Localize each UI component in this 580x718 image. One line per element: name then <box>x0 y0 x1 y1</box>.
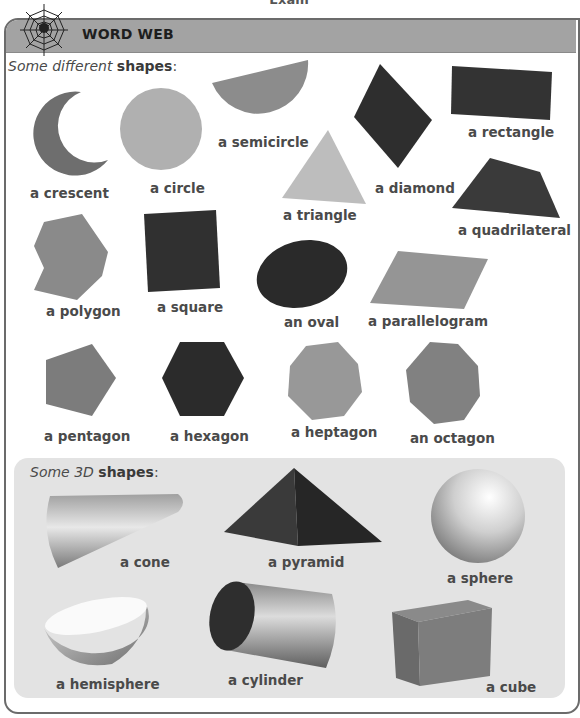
label-triangle: a triangle <box>283 207 357 223</box>
title-bold: shapes <box>98 464 154 480</box>
label-polygon: a polygon <box>46 303 121 319</box>
parallelogram-shape <box>368 249 490 311</box>
hemisphere-shape <box>42 592 152 668</box>
title-italic: Some different <box>8 58 112 74</box>
title-italic: Some 3D <box>30 464 94 480</box>
label-diamond: a diamond <box>375 180 455 196</box>
label-cube: a cube <box>486 679 536 695</box>
label-hexagon: a hexagon <box>170 428 249 444</box>
label-oval: an oval <box>284 314 339 330</box>
header-title: WORD WEB <box>82 26 174 42</box>
circle-shape <box>118 86 204 172</box>
word-web-header: WORD WEB <box>6 20 576 53</box>
title-suffix: : <box>154 464 159 480</box>
label-parallelogram: a parallelogram <box>368 313 488 329</box>
label-circle: a circle <box>150 180 205 196</box>
label-pyramid: a pyramid <box>268 554 344 570</box>
rectangle-shape <box>450 64 556 124</box>
oval-shape <box>254 238 350 310</box>
label-sphere: a sphere <box>447 570 513 586</box>
spider-web-icon <box>14 0 74 60</box>
label-hemisphere: a hemisphere <box>56 676 160 692</box>
heptagon-shape <box>284 340 364 424</box>
hexagon-shape <box>160 340 246 420</box>
label-heptagon: a heptagon <box>291 424 377 440</box>
semicircle-shape <box>210 58 310 128</box>
cylinder-shape <box>206 580 342 672</box>
pyramid-shape <box>222 466 384 548</box>
label-rectangle: a rectangle <box>468 124 554 140</box>
cube-shape <box>390 598 496 688</box>
label-crescent: a crescent <box>30 185 109 201</box>
label-pentagon: a pentagon <box>44 428 130 444</box>
crescent-shape <box>26 90 111 180</box>
pentagon-shape <box>40 342 120 422</box>
page-fragment-text: Exam <box>0 0 578 7</box>
label-cylinder: a cylinder <box>228 672 303 688</box>
label-quadrilateral: a quadrilateral <box>458 222 571 238</box>
square-shape <box>142 208 222 294</box>
triangle-shape <box>280 128 368 208</box>
section-2d-title: Some different shapes: <box>8 58 177 74</box>
label-cone: a cone <box>120 554 170 570</box>
title-bold: shapes <box>117 58 173 74</box>
title-suffix: : <box>172 58 177 74</box>
octagon-shape <box>402 340 482 426</box>
label-octagon: an octagon <box>410 430 495 446</box>
quadrilateral-shape <box>450 156 562 220</box>
label-square: a square <box>157 299 223 315</box>
section-3d-title: Some 3D shapes: <box>30 464 159 480</box>
polygon-shape <box>32 212 112 302</box>
sphere-shape <box>428 466 528 566</box>
